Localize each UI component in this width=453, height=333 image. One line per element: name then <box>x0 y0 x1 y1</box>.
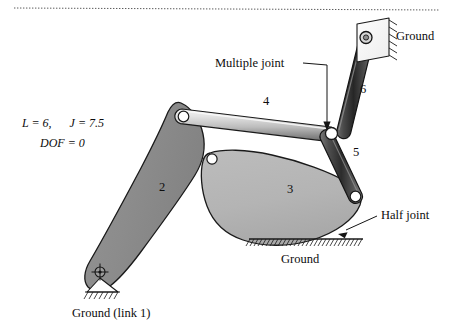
link-2-body <box>85 102 204 290</box>
equation-line-1: L = 6, J = 7.5 <box>22 117 104 130</box>
pin-joint-link2-link4 <box>178 111 189 122</box>
ground-label-bottom: Ground <box>281 252 319 266</box>
figure-canvas: L = 6, J = 7.5 DOF = 0 2 3 4 5 6 Multipl… <box>0 0 453 333</box>
pin-joint-link6-ground <box>360 32 372 44</box>
ground-link1-label: Ground (link 1) <box>72 306 150 320</box>
link-6-label: 6 <box>360 82 366 96</box>
link-5-label: 5 <box>353 145 359 159</box>
mechanism-svg <box>0 0 453 333</box>
pin-joint-link5-link3 <box>350 191 361 202</box>
equation-line-2: DOF = 0 <box>40 137 85 150</box>
leader-multiple-joint <box>303 63 331 131</box>
equation-L: L = 6, <box>22 116 52 130</box>
half-joint-label: Half joint <box>381 208 429 222</box>
ground-hatching-link1 <box>84 292 118 299</box>
ground-label-top-right: Ground <box>396 29 434 43</box>
equation-J: J = 7.5 <box>70 116 104 130</box>
multiple-joint-label: Multiple joint <box>215 56 284 70</box>
pin-joint-link2-link3 <box>207 154 217 164</box>
link-2-label: 2 <box>159 180 165 194</box>
link-3-label: 3 <box>287 182 293 196</box>
top-dotted-rule <box>14 8 440 10</box>
link-4-label: 4 <box>263 94 269 108</box>
